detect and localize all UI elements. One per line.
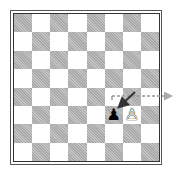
square-d8 bbox=[68, 14, 86, 32]
square-g3: ♙ bbox=[123, 106, 141, 124]
black-pawn-icon: ♟ bbox=[105, 106, 123, 124]
square-h5 bbox=[141, 69, 159, 87]
square-e8 bbox=[87, 14, 105, 32]
square-b7 bbox=[32, 32, 50, 50]
square-a6 bbox=[14, 51, 32, 69]
square-c6 bbox=[50, 51, 68, 69]
square-e4 bbox=[87, 88, 105, 106]
square-a1 bbox=[14, 143, 32, 161]
square-e5 bbox=[87, 69, 105, 87]
square-f7 bbox=[105, 32, 123, 50]
square-g8 bbox=[123, 14, 141, 32]
square-h6 bbox=[141, 51, 159, 69]
square-f1 bbox=[105, 143, 123, 161]
square-a3 bbox=[14, 106, 32, 124]
square-c5 bbox=[50, 69, 68, 87]
square-a5 bbox=[14, 69, 32, 87]
chess-board: ♟♙ bbox=[13, 13, 160, 162]
square-g5 bbox=[123, 69, 141, 87]
square-e2 bbox=[87, 124, 105, 142]
square-f6 bbox=[105, 51, 123, 69]
square-a4 bbox=[14, 88, 32, 106]
square-f4 bbox=[105, 88, 123, 106]
square-a7 bbox=[14, 32, 32, 50]
square-h2 bbox=[141, 124, 159, 142]
square-h7 bbox=[141, 32, 159, 50]
square-f2 bbox=[105, 124, 123, 142]
square-d3 bbox=[68, 106, 86, 124]
square-b3 bbox=[32, 106, 50, 124]
square-c7 bbox=[50, 32, 68, 50]
square-e3 bbox=[87, 106, 105, 124]
square-e7 bbox=[87, 32, 105, 50]
square-h1 bbox=[141, 143, 159, 161]
square-e6 bbox=[87, 51, 105, 69]
square-h3 bbox=[141, 106, 159, 124]
square-d7 bbox=[68, 32, 86, 50]
square-d1 bbox=[68, 143, 86, 161]
square-d4 bbox=[68, 88, 86, 106]
square-c3 bbox=[50, 106, 68, 124]
square-h4 bbox=[141, 88, 159, 106]
square-f3: ♟ bbox=[105, 106, 123, 124]
square-f8 bbox=[105, 14, 123, 32]
square-c8 bbox=[50, 14, 68, 32]
square-b8 bbox=[32, 14, 50, 32]
square-g2 bbox=[123, 124, 141, 142]
square-b1 bbox=[32, 143, 50, 161]
square-b4 bbox=[32, 88, 50, 106]
square-c2 bbox=[50, 124, 68, 142]
square-h8 bbox=[141, 14, 159, 32]
square-g4 bbox=[123, 88, 141, 106]
square-c1 bbox=[50, 143, 68, 161]
square-a8 bbox=[14, 14, 32, 32]
square-b6 bbox=[32, 51, 50, 69]
white-pawn-icon: ♙ bbox=[123, 106, 141, 124]
square-e1 bbox=[87, 143, 105, 161]
square-d2 bbox=[68, 124, 86, 142]
square-b2 bbox=[32, 124, 50, 142]
square-g6 bbox=[123, 51, 141, 69]
square-g1 bbox=[123, 143, 141, 161]
square-d5 bbox=[68, 69, 86, 87]
square-f5 bbox=[105, 69, 123, 87]
square-g7 bbox=[123, 32, 141, 50]
square-b5 bbox=[32, 69, 50, 87]
square-d6 bbox=[68, 51, 86, 69]
square-a2 bbox=[14, 124, 32, 142]
square-c4 bbox=[50, 88, 68, 106]
